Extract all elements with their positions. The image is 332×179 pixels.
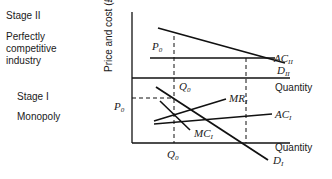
d2-letter: D: [277, 64, 285, 76]
mr1-label: MRI: [229, 92, 247, 108]
mr1-sub: I: [245, 98, 247, 106]
d2-label: DII: [277, 64, 290, 80]
ac1-sub: I: [289, 114, 291, 122]
x-axis-upper-label: Quantity: [275, 82, 312, 94]
lower-q0-letter: Q: [167, 148, 175, 160]
x-axis-lower-label: Quantity: [275, 142, 312, 154]
upper-p0-letter: P: [152, 40, 159, 52]
upper-p0-label: P0: [152, 40, 162, 56]
lower-p0-label: P0: [114, 100, 124, 116]
ac1-letter: AC: [275, 108, 289, 120]
lower-q0-sub: 0: [175, 154, 179, 162]
ac1-label: ACI: [275, 108, 291, 124]
d1-letter: D: [273, 154, 281, 166]
ac2-letter: AC: [274, 52, 288, 64]
mc1-letter: MC: [194, 127, 211, 139]
upper-q0-label: Q0: [179, 80, 190, 96]
d1-sub: I: [281, 160, 283, 168]
upper-q0-letter: Q: [179, 80, 187, 92]
d1-label: DI: [273, 154, 283, 170]
d2-sub: II: [285, 70, 290, 78]
mc1-label: MCI: [194, 127, 213, 143]
mr1-letter: MR: [229, 92, 245, 104]
lower-q0-label: Q0: [167, 148, 178, 164]
lower-p0-sub: 0: [121, 106, 125, 114]
mc1-sub: I: [211, 133, 213, 141]
upper-p0-sub: 0: [159, 46, 163, 54]
mr1-curve: [154, 99, 226, 121]
upper-q0-sub: 0: [187, 86, 191, 94]
lower-p0-letter: P: [114, 100, 121, 112]
